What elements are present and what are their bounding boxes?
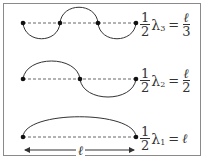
rhs-length: ℓ [182, 131, 187, 147]
rhs-fraction: ℓ 2 [182, 67, 190, 94]
lambda-symbol: λ [151, 73, 160, 89]
equation-mode-3: 1 2 λ3 = ℓ 3 [140, 11, 191, 38]
half-fraction: 1 2 [140, 67, 150, 94]
lambda-symbol: λ [151, 131, 160, 147]
lambda-symbol: λ [151, 17, 160, 33]
equation-mode-1: 1 2 λ1 = ℓ [140, 125, 188, 152]
length-label: ℓ [76, 143, 85, 159]
rhs-fraction: ℓ 3 [182, 11, 190, 38]
mode-2-wave [21, 61, 139, 97]
half-fraction: 1 2 [140, 125, 150, 152]
half-fraction: 1 2 [140, 11, 150, 38]
equation-mode-2: 1 2 λ2 = ℓ 2 [140, 67, 191, 94]
mode-3-wave [21, 7, 139, 39]
mode-1-wave [21, 117, 139, 140]
